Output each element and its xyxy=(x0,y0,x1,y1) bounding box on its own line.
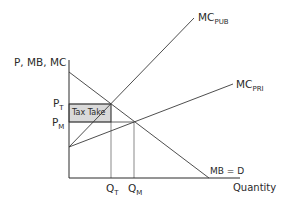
q-m-label: QM xyxy=(128,182,142,197)
mc-pub-label: MCPUB xyxy=(198,11,229,26)
mc-pub-curve xyxy=(69,18,194,147)
tax-take-label: Tax Take xyxy=(71,108,106,117)
mb-d-label: MB = D xyxy=(210,166,244,176)
q-t-label: QT xyxy=(106,182,119,197)
x-axis-label: Quantity xyxy=(233,182,276,193)
economics-diagram: P, MB, MC Quantity MCPUB MCPRI MB = D PT… xyxy=(0,0,287,207)
p-t-label: PT xyxy=(53,97,64,112)
y-axis-label: P, MB, MC xyxy=(14,56,66,68)
p-m-label: PM xyxy=(52,116,64,131)
mc-pri-label: MCPRI xyxy=(236,78,264,93)
